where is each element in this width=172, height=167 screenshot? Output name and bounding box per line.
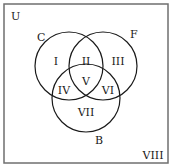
region-label-v: V — [81, 75, 91, 88]
region-label-i: I — [54, 55, 58, 68]
region-label-ii: II — [82, 55, 91, 68]
region-label-vii: VII — [77, 106, 95, 119]
region-label-viii: VIII — [142, 149, 164, 162]
set-label-f: F — [130, 28, 138, 41]
region-label-iv: IV — [58, 84, 71, 97]
universe-label: U — [11, 10, 20, 23]
region-label-iii: III — [111, 55, 124, 68]
region-label-vi: VI — [101, 84, 114, 97]
venn-diagram: U C F B I II III IV V VI VII VIII — [0, 0, 172, 167]
set-label-b: B — [95, 134, 103, 147]
set-label-c: C — [37, 31, 45, 44]
